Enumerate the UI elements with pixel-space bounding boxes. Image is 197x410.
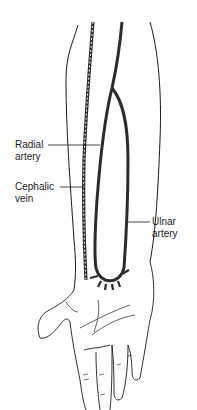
arm-outline (66, 22, 161, 290)
forearm-illustration (0, 0, 197, 410)
cephalic-vein (84, 22, 93, 280)
palmar-arch (96, 268, 124, 281)
ulnar-artery (112, 88, 128, 268)
label-cephalic-vein-line2: vein (15, 193, 54, 205)
label-radial-artery-line2: artery (15, 151, 43, 163)
label-ulnar-artery: Ulnar artery (152, 216, 178, 240)
label-cephalic-vein-line1: Cephalic (15, 181, 54, 193)
hand-outline (38, 262, 154, 410)
label-radial-artery-line1: Radial (15, 139, 43, 151)
label-cephalic-vein: Cephalic vein (15, 181, 54, 205)
label-ulnar-artery-line1: Ulnar (152, 216, 178, 228)
label-ulnar-artery-line2: artery (152, 228, 178, 240)
label-radial-artery: Radial artery (15, 139, 43, 163)
